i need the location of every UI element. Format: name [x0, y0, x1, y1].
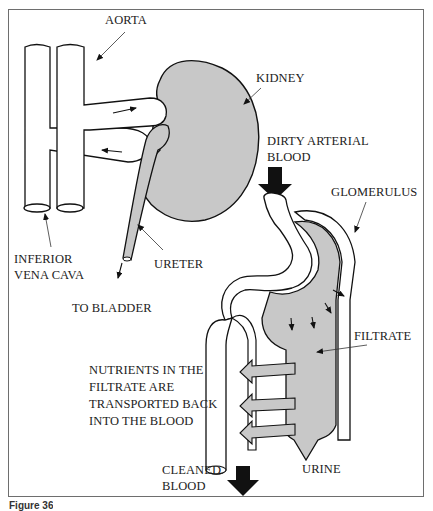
label-urine: URINE [302, 461, 341, 477]
label-kidney: KIDNEY [256, 70, 305, 86]
reabsorption-arrows-icon [240, 360, 295, 444]
label-to-bladder: TO BLADDER [72, 300, 152, 316]
figure-caption: Figure 36 [9, 500, 53, 511]
label-ureter: URETER [154, 256, 203, 272]
label-inferior-vena-cava: INFERIOR VENA CAVA [14, 251, 84, 283]
label-glomerulus: GLOMERULUS [331, 184, 417, 200]
label-filtrate: FILTRATE [354, 328, 411, 344]
label-nutrients: NUTRIENTS IN THE FILTRATE ARE TRANSPORTE… [89, 362, 217, 430]
label-aorta: AORTA [105, 12, 147, 28]
label-dirty-arterial-blood: DIRTY ARTERIAL BLOOD [267, 133, 369, 165]
label-cleaned-blood: CLEANED BLOOD [162, 462, 221, 494]
cleaned-blood-arrow-icon [227, 466, 259, 496]
